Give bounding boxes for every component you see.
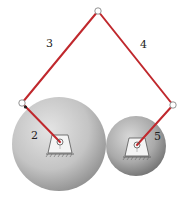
label-link-5: 5: [154, 130, 161, 143]
joint-right: [170, 102, 176, 108]
coupler-dot: [24, 105, 27, 108]
label-link-3: 3: [46, 37, 53, 50]
label-link-4: 4: [140, 38, 147, 51]
link-4: [98, 11, 173, 105]
label-link-2: 2: [31, 129, 38, 142]
link-3: [22, 11, 98, 103]
joint-left: [19, 100, 25, 106]
linkage-diagram: 3 4 2 5: [0, 0, 183, 203]
joint-top: [95, 8, 101, 14]
